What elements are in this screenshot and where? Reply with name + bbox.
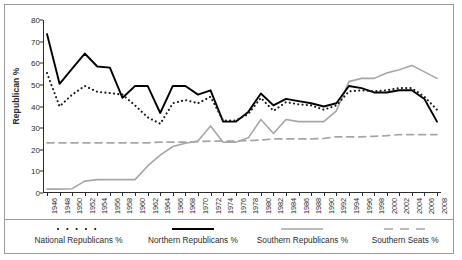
legend-item-southern-seats: Southern Seats % (357, 220, 453, 245)
x-tick-mark (85, 193, 86, 196)
x-tick-label: 1994 (352, 198, 361, 214)
legend-label-northern: Northern Republicans % (148, 235, 238, 245)
x-tick-label: 1966 (176, 198, 185, 214)
x-tick-label: 1970 (201, 198, 210, 214)
legend-swatch-solid-black (170, 225, 216, 233)
x-tick-mark (349, 193, 350, 196)
x-tick-mark (173, 193, 174, 196)
x-tick-label: 1990 (327, 198, 336, 214)
legend-swatch-solid-gray (279, 225, 325, 233)
x-tick-mark (374, 193, 375, 196)
x-tick-mark (399, 193, 400, 196)
x-tick-mark (72, 193, 73, 196)
legend-swatch-dashed-gray (382, 225, 428, 233)
legend-item-southern: Southern Republicans % (248, 220, 357, 245)
plot-area: 01020304050607080 1946194819501952195419… (43, 20, 441, 193)
y-tick-label: 40 (31, 102, 40, 111)
x-tick-mark (122, 193, 123, 196)
x-tick-label: 1960 (138, 198, 147, 214)
y-tick-label: 20 (31, 145, 40, 154)
x-tick-label: 1946 (50, 198, 59, 214)
x-tick-mark (412, 193, 413, 196)
x-tick-label: 1968 (188, 198, 197, 214)
x-tick-mark (198, 193, 199, 196)
series-layer (43, 20, 441, 193)
x-tick-label: 1974 (226, 198, 235, 214)
series-line (47, 73, 437, 124)
x-tick-label: 1956 (113, 198, 122, 214)
legend-item-national: National Republicans % (19, 220, 138, 245)
x-tick-mark (160, 193, 161, 196)
x-tick-mark (223, 193, 224, 196)
y-tick-label: 80 (31, 16, 40, 25)
legend-label-southern-seats: Southern Seats % (372, 235, 439, 245)
x-tick-label: 2000 (390, 198, 399, 214)
x-tick-label: 1950 (75, 198, 84, 214)
x-tick-label: 2002 (402, 198, 411, 214)
x-tick-mark (336, 193, 337, 196)
series-line (47, 135, 437, 143)
x-tick-mark (60, 193, 61, 196)
x-tick-mark (324, 193, 325, 196)
x-tick-label: 1984 (289, 198, 298, 214)
x-tick-mark (148, 193, 149, 196)
x-tick-mark (110, 193, 111, 196)
series-line (47, 34, 437, 122)
chart-legend: National Republicans % Northern Republic… (5, 220, 453, 253)
x-tick-mark (299, 193, 300, 196)
legend-label-national: National Republicans % (35, 235, 123, 245)
x-tick-label: 2006 (427, 198, 436, 214)
x-tick-label: 2008 (440, 198, 449, 214)
legend-label-southern: Southern Republicans % (257, 235, 348, 245)
x-tick-mark (47, 193, 48, 196)
plot-area-wrapper: Republican % 01020304050607080 194619481… (5, 5, 453, 219)
x-tick-label: 1986 (302, 198, 311, 214)
x-tick-label: 1992 (339, 198, 348, 214)
x-tick-mark (248, 193, 249, 196)
x-tick-label: 1998 (377, 198, 386, 214)
x-tick-mark (286, 193, 287, 196)
x-tick-label: 2004 (415, 198, 424, 214)
x-tick-mark (387, 193, 388, 196)
x-tick-mark (273, 193, 274, 196)
y-tick-label: 50 (31, 80, 40, 89)
y-axis-title: Republican % (11, 41, 21, 151)
x-tick-mark (185, 193, 186, 196)
x-tick-mark (424, 193, 425, 196)
chart-figure: Republican % 01020304050607080 194619481… (4, 4, 454, 254)
x-tick-label: 1982 (276, 198, 285, 214)
x-tick-label: 1952 (88, 198, 97, 214)
x-tick-label: 1958 (125, 198, 134, 214)
y-tick-label: 70 (31, 37, 40, 46)
x-tick-label: 1962 (151, 198, 160, 214)
x-tick-label: 1948 (63, 198, 72, 214)
x-tick-label: 1980 (264, 198, 273, 214)
y-tick-label: 10 (31, 167, 40, 176)
x-tick-mark (135, 193, 136, 196)
x-tick-mark (362, 193, 363, 196)
x-tick-mark (97, 193, 98, 196)
x-tick-mark (236, 193, 237, 196)
x-tick-label: 1988 (314, 198, 323, 214)
x-tick-label: 1996 (365, 198, 374, 214)
x-tick-label: 1964 (163, 198, 172, 214)
y-tick-label: 60 (31, 59, 40, 68)
x-tick-label: 1954 (100, 198, 109, 214)
x-tick-label: 1976 (239, 198, 248, 214)
x-tick-mark (437, 193, 438, 196)
x-tick-label: 1978 (251, 198, 260, 214)
series-line (47, 65, 437, 189)
x-tick-mark (311, 193, 312, 196)
legend-item-northern: Northern Republicans % (138, 220, 247, 245)
y-tick-label: 30 (31, 124, 40, 133)
x-tick-mark (261, 193, 262, 196)
legend-swatch-dotted-black (56, 225, 102, 233)
x-tick-mark (211, 193, 212, 196)
x-tick-label: 1972 (214, 198, 223, 214)
